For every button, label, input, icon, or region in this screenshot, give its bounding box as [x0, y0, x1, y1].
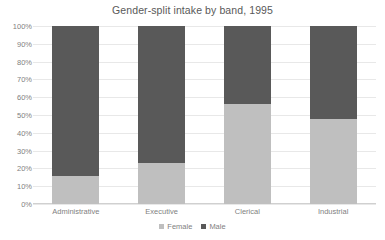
legend-entry-female[interactable]: Female	[159, 222, 192, 231]
stacked-bar[interactable]	[52, 26, 99, 204]
bar-group[interactable]	[138, 26, 185, 204]
legend-swatch-icon	[201, 224, 206, 229]
x-axis-tick-label: Industrial	[290, 207, 376, 216]
bar-group[interactable]	[310, 26, 357, 204]
bar-segment-female[interactable]	[138, 163, 185, 204]
bars-layer	[33, 26, 376, 204]
x-axis-tick-label: Clerical	[205, 207, 291, 216]
bar-segment-male[interactable]	[52, 26, 99, 176]
bar-group[interactable]	[52, 26, 99, 204]
y-axis-tick-label: 0%	[2, 200, 32, 209]
y-axis-tick-label: 40%	[2, 128, 32, 137]
y-axis-tick-label: 60%	[2, 93, 32, 102]
bar-group[interactable]	[224, 26, 271, 204]
bar-segment-female[interactable]	[310, 119, 357, 204]
y-axis-tick-label: 20%	[2, 164, 32, 173]
bar-segment-female[interactable]	[224, 104, 271, 204]
legend-label: Male	[209, 222, 225, 231]
bar-segment-female[interactable]	[52, 176, 99, 204]
stacked-bar[interactable]	[310, 26, 357, 204]
bar-segment-male[interactable]	[224, 26, 271, 104]
stacked-bar[interactable]	[224, 26, 271, 204]
legend-swatch-icon	[159, 224, 164, 229]
y-axis-tick-label: 50%	[2, 111, 32, 120]
chart-container: Gender-split intake by band, 1995 0%10%2…	[0, 0, 385, 240]
y-axis-tick-label: 90%	[2, 39, 32, 48]
chart-title: Gender-split intake by band, 1995	[0, 4, 385, 16]
y-axis-tick-label: 100%	[2, 22, 32, 31]
x-axis-tick-label: Executive	[119, 207, 205, 216]
y-axis-tick-label: 10%	[2, 182, 32, 191]
y-axis-tick-label: 70%	[2, 75, 32, 84]
chart-legend: FemaleMale	[0, 222, 385, 231]
x-axis-tick-label: Administrative	[33, 207, 119, 216]
stacked-bar[interactable]	[138, 26, 185, 204]
legend-entry-male[interactable]: Male	[201, 222, 225, 231]
y-axis-tick-label: 30%	[2, 146, 32, 155]
plot-area	[33, 26, 376, 204]
bar-segment-male[interactable]	[138, 26, 185, 163]
gridline	[33, 204, 376, 205]
legend-label: Female	[167, 222, 192, 231]
bar-segment-male[interactable]	[310, 26, 357, 119]
y-axis-tick-label: 80%	[2, 57, 32, 66]
